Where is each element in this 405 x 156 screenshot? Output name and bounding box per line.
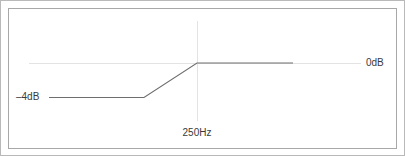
response-curve	[49, 63, 293, 98]
gain-label-high: 0dB	[366, 57, 384, 68]
frequency-label: 250Hz	[183, 127, 212, 138]
gain-label-low: –4dB	[16, 91, 39, 102]
eq-curve-screenshot: –4dB 0dB 250Hz	[0, 0, 405, 156]
